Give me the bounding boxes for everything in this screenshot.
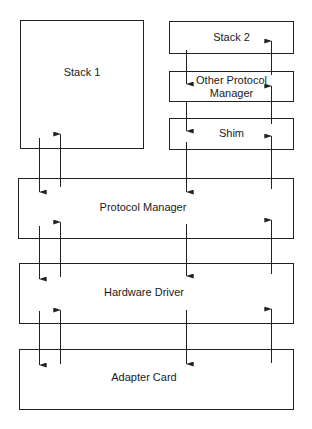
arrows-layer: [0, 0, 312, 429]
